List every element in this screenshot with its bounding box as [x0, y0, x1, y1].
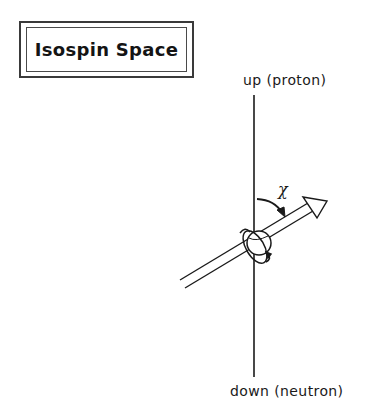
curved-arrow-icon [257, 199, 285, 217]
isospin-diagram [0, 0, 371, 408]
angle-chi-label: χ [278, 180, 288, 199]
sphere-icon [247, 231, 271, 255]
